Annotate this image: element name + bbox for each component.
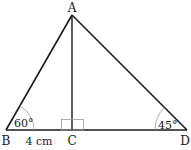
- vertex-label-a: A: [67, 1, 77, 15]
- angle-label-d: 45°: [158, 119, 178, 132]
- measurement-label-bc: 4 cm: [25, 135, 53, 148]
- triangle-diagram: A B C D 60° 45° 4 cm: [0, 0, 191, 150]
- vertex-label-b: B: [2, 134, 11, 148]
- segment-ab: [6, 15, 72, 130]
- vertex-label-d: D: [180, 134, 190, 148]
- vertex-label-c: C: [67, 134, 76, 148]
- angle-label-b: 60°: [14, 117, 34, 130]
- segment-ad: [72, 15, 187, 130]
